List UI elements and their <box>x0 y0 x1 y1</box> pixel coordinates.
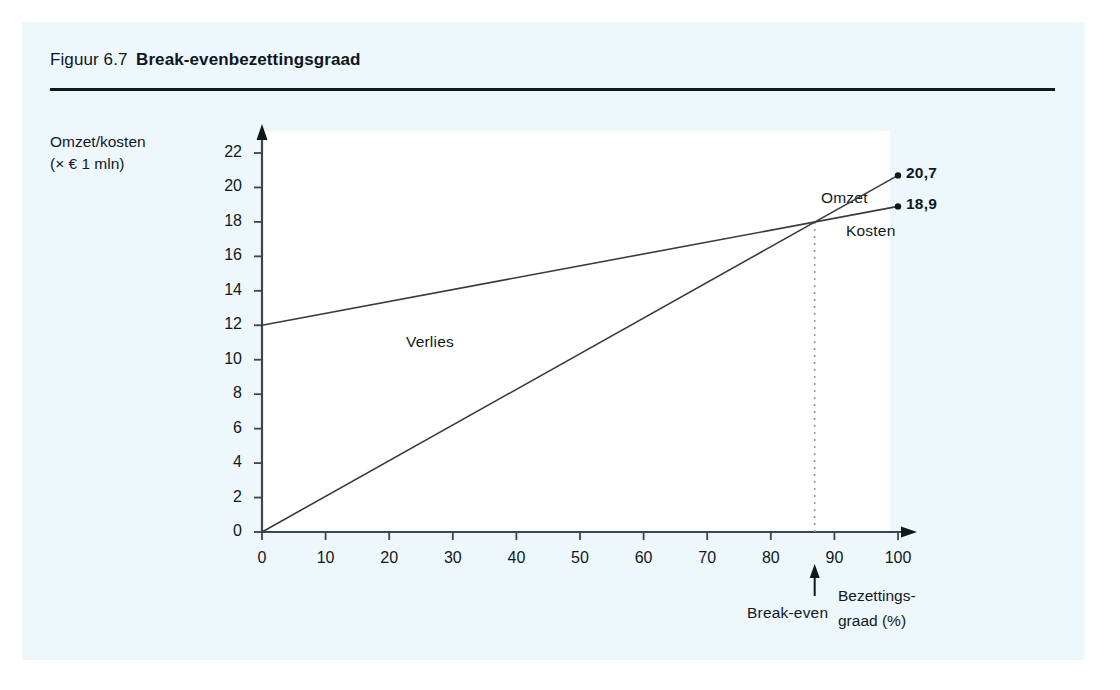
series-endpoint-marker-omzet <box>895 172 901 178</box>
series-line-omzet <box>262 175 898 532</box>
x-axis-arrow-icon <box>901 527 917 538</box>
chart-svg <box>0 0 1120 690</box>
series-line-kosten <box>262 206 898 325</box>
y-axis-arrow-icon <box>257 124 268 140</box>
break-even-arrow-icon <box>810 564 820 578</box>
chart: Omzet/kosten (× € 1 mln) Bezettings- gra… <box>0 0 1120 690</box>
figure-page: Figuur 6.7 Break-evenbezettingsgraad Omz… <box>0 0 1120 690</box>
series-endpoint-marker-kosten <box>895 203 901 209</box>
